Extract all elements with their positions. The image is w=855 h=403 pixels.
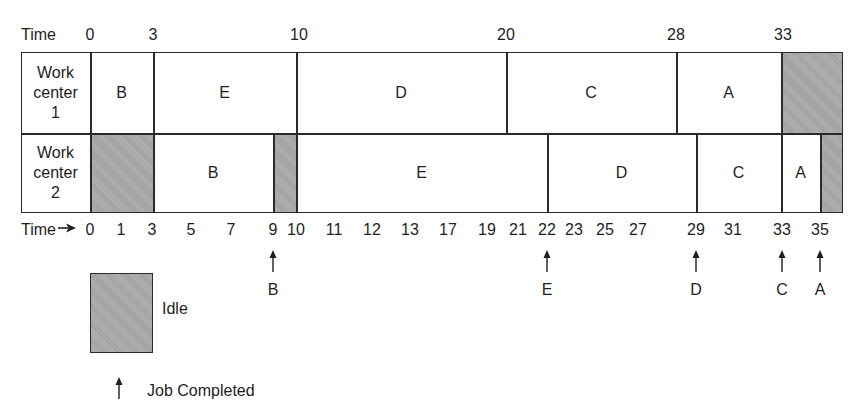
top-tick-10: 10 bbox=[290, 26, 308, 44]
right-arrow-icon bbox=[56, 220, 78, 238]
row-header-line: 2 bbox=[51, 183, 60, 203]
row-header-line: Work bbox=[37, 143, 74, 163]
up-arrow-icon bbox=[814, 250, 826, 276]
bottom-tick: 13 bbox=[401, 221, 419, 239]
row-header-line: 1 bbox=[51, 103, 60, 123]
bottom-tick: 12 bbox=[363, 221, 381, 239]
wc1-job-e: E bbox=[153, 52, 296, 133]
bottom-tick: 22 bbox=[538, 221, 556, 239]
top-tick-28: 28 bbox=[667, 26, 685, 44]
wc2-divider-35 bbox=[820, 133, 822, 213]
bottom-tick: 9 bbox=[269, 221, 278, 239]
bottom-tick: 25 bbox=[596, 221, 614, 239]
completion-label-c: C bbox=[776, 281, 788, 299]
wc1-job-d: D bbox=[296, 52, 506, 133]
time-label-text: Time bbox=[21, 221, 56, 238]
wc2-job-e: E bbox=[296, 133, 547, 213]
bottom-tick: 0 bbox=[86, 221, 95, 239]
wc2-job-c: C bbox=[696, 133, 781, 213]
bottom-tick: 27 bbox=[629, 221, 647, 239]
row-header-line: center bbox=[33, 83, 77, 103]
bottom-tick: 29 bbox=[687, 221, 705, 239]
top-tick-0: 0 bbox=[86, 26, 95, 44]
top-tick-20: 20 bbox=[497, 26, 515, 44]
bottom-tick: 7 bbox=[227, 221, 236, 239]
up-arrow-icon bbox=[541, 250, 553, 276]
top-time-axis-label: Time bbox=[21, 26, 56, 44]
bottom-tick: 5 bbox=[187, 221, 196, 239]
row-header-line: Work bbox=[37, 63, 74, 83]
bottom-tick: 35 bbox=[811, 221, 829, 239]
wc1-job-c: C bbox=[506, 52, 676, 133]
legend-job-completed-label: Job Completed bbox=[147, 382, 255, 400]
up-arrow-icon bbox=[776, 250, 788, 276]
row-header-work-center-1: Work center 1 bbox=[21, 52, 90, 133]
bottom-tick: 3 bbox=[148, 221, 157, 239]
bottom-tick: 21 bbox=[509, 221, 527, 239]
legend-idle-label: Idle bbox=[162, 300, 188, 318]
bottom-tick: 1 bbox=[117, 221, 126, 239]
completion-label-d: D bbox=[690, 281, 702, 299]
up-arrow-icon bbox=[113, 377, 125, 403]
completion-label-e: E bbox=[542, 281, 553, 299]
top-tick-33: 33 bbox=[774, 26, 792, 44]
top-tick-3: 3 bbox=[149, 26, 158, 44]
bottom-tick: 31 bbox=[724, 221, 742, 239]
wc2-divider-9 bbox=[273, 133, 275, 213]
row-header-work-center-2: Work center 2 bbox=[21, 133, 90, 213]
row-header-line: center bbox=[33, 163, 77, 183]
wc2-job-b: B bbox=[153, 133, 273, 213]
up-arrow-icon bbox=[690, 250, 702, 276]
completion-label-b: B bbox=[268, 281, 279, 299]
bottom-tick: 10 bbox=[287, 221, 305, 239]
idle-swatch bbox=[90, 273, 153, 353]
bottom-tick: 19 bbox=[478, 221, 496, 239]
bottom-tick: 11 bbox=[326, 221, 343, 239]
wc1-job-a: A bbox=[676, 52, 781, 133]
wc2-job-a: A bbox=[781, 133, 820, 213]
wc1-job-b: B bbox=[90, 52, 153, 133]
bottom-tick: 23 bbox=[565, 221, 583, 239]
bottom-tick: 17 bbox=[439, 221, 457, 239]
wc2-job-d: D bbox=[547, 133, 696, 213]
bottom-time-axis-label: Time bbox=[21, 221, 78, 239]
bottom-tick: 33 bbox=[773, 221, 791, 239]
completion-label-a: A bbox=[815, 281, 826, 299]
up-arrow-icon bbox=[267, 250, 279, 276]
